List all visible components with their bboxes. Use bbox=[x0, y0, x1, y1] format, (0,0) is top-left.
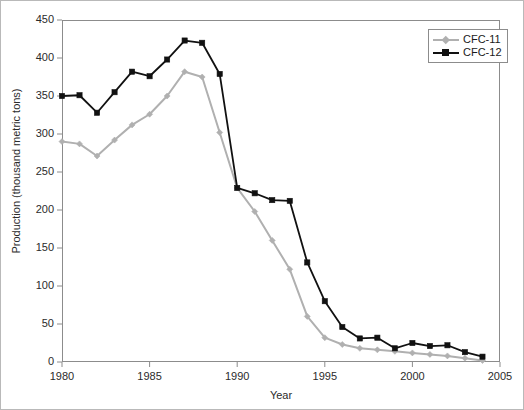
data-series-group bbox=[59, 38, 485, 364]
series-cfc-12 bbox=[59, 38, 485, 359]
chart-legend: CFC-11 CFC-12 bbox=[428, 29, 508, 63]
x-tick-label: 1990 bbox=[212, 371, 262, 382]
legend-item-cfc11: CFC-11 bbox=[433, 33, 502, 46]
x-tick-label: 1995 bbox=[300, 371, 350, 382]
legend-label-cfc11: CFC-11 bbox=[463, 34, 501, 45]
y-tick-label: 400 bbox=[8, 52, 54, 63]
y-tick-label: 50 bbox=[8, 318, 54, 329]
chart-figure: 050100150200250300350400450 198019851990… bbox=[0, 0, 524, 410]
y-axis-title: Production (thousand metric tons) bbox=[10, 71, 22, 271]
legend-swatch-cfc12-icon bbox=[433, 47, 459, 58]
x-tick-label: 2000 bbox=[387, 371, 437, 382]
legend-swatch-cfc11-icon bbox=[433, 34, 459, 45]
y-tick-label: 0 bbox=[8, 356, 54, 367]
x-axis-title: Year bbox=[62, 389, 500, 401]
legend-item-cfc12: CFC-12 bbox=[433, 46, 502, 59]
x-tick-label: 1980 bbox=[37, 371, 87, 382]
y-tick-label: 100 bbox=[8, 280, 54, 291]
x-tick-label: 2005 bbox=[475, 371, 524, 382]
x-tick-label: 1985 bbox=[125, 371, 175, 382]
y-tick-label: 450 bbox=[8, 14, 54, 25]
series-cfc-11 bbox=[59, 69, 485, 364]
legend-label-cfc12: CFC-12 bbox=[463, 47, 502, 58]
axis-ticks bbox=[57, 20, 500, 367]
